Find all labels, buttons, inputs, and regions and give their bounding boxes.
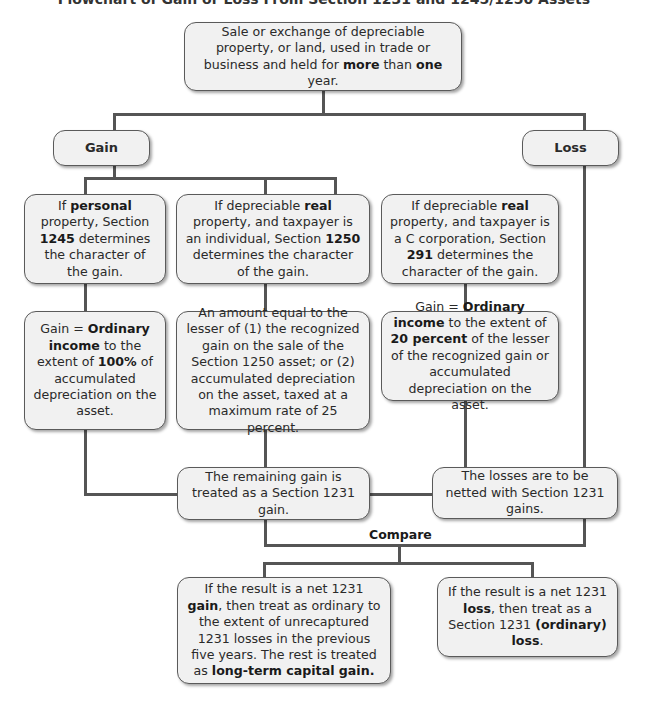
- connector: [264, 544, 586, 547]
- connector: [113, 113, 586, 116]
- connector: [84, 493, 178, 496]
- gain-node: Gain: [53, 130, 150, 166]
- remaining-gain-node: The remaining gain is treated as a Secti…: [177, 467, 370, 520]
- connector: [84, 177, 87, 195]
- connector: [263, 562, 266, 578]
- loss-node: Loss: [522, 130, 619, 166]
- node-text: If depreciable real property, and taxpay…: [185, 198, 361, 280]
- connector: [84, 283, 87, 311]
- loss-label: Loss: [554, 140, 587, 156]
- node-text: Sale or exchange of depreciable property…: [193, 24, 453, 90]
- connector: [322, 91, 325, 115]
- connector: [84, 177, 337, 180]
- node-text: If the result is a net 1231 gain, then t…: [186, 581, 382, 679]
- node-text: Gain = Ordinary income to the extent of …: [390, 299, 550, 414]
- real-property-individual-node: If depreciable real property, and taxpay…: [176, 194, 370, 284]
- net-1231-gain-node: If the result is a net 1231 gain, then t…: [177, 577, 391, 684]
- connector: [84, 429, 87, 495]
- connector: [583, 518, 586, 547]
- personal-property-node: If personal property, Section 1245 deter…: [24, 194, 166, 284]
- connector: [113, 113, 116, 131]
- real-property-corporation-node: If depreciable real property, and taxpay…: [381, 194, 559, 284]
- section-291-result-node: Gain = Ordinary income to the extent of …: [381, 311, 559, 401]
- net-1231-loss-node: If the result is a net 1231 loss, then t…: [437, 577, 618, 657]
- diagram-title: Flowchart of Gain or Loss From Section 1…: [0, 0, 648, 7]
- start-node: Sale or exchange of depreciable property…: [184, 22, 462, 91]
- section-1250-result-node: An amount equal to the lesser of (1) the…: [176, 311, 370, 430]
- node-text: Gain = Ordinary income to the extent of …: [33, 321, 157, 419]
- node-text: The remaining gain is treated as a Secti…: [186, 469, 361, 518]
- node-text: If personal property, Section 1245 deter…: [33, 198, 157, 280]
- connector: [263, 562, 534, 565]
- node-text: If the result is a net 1231 loss, then t…: [446, 584, 609, 650]
- connector: [264, 520, 267, 547]
- connector: [583, 113, 586, 131]
- node-text: The losses are to be netted with Section…: [441, 468, 609, 517]
- connector: [531, 562, 534, 578]
- connector: [334, 177, 337, 195]
- connector: [264, 177, 267, 195]
- losses-netted-node: The losses are to be netted with Section…: [432, 467, 618, 519]
- section-1245-result-node: Gain = Ordinary income to the extent of …: [24, 311, 166, 430]
- compare-label: Compare: [369, 527, 432, 542]
- node-text: An amount equal to the lesser of (1) the…: [185, 305, 361, 436]
- node-text: If depreciable real property, and taxpay…: [390, 198, 550, 280]
- connector: [583, 165, 586, 468]
- gain-label: Gain: [85, 140, 118, 156]
